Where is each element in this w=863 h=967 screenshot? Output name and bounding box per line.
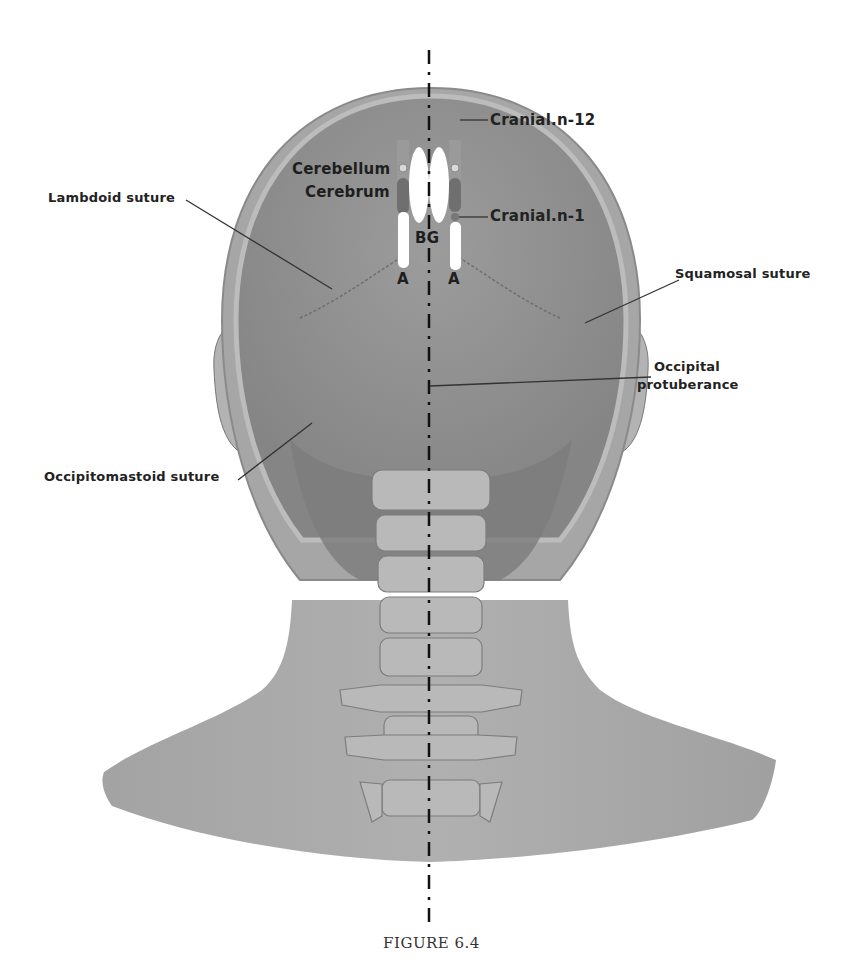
cerebellum-marker-left bbox=[399, 164, 407, 172]
label-a-left: A bbox=[397, 271, 409, 287]
label-lambdoid-suture: Lambdoid suture bbox=[48, 190, 175, 206]
cerebrum-marker-right bbox=[449, 178, 461, 212]
label-squamosal-suture: Squamosal suture bbox=[675, 266, 811, 282]
cranial-n1-marker bbox=[451, 213, 459, 221]
electrode-a-right bbox=[450, 222, 461, 270]
bg-oval-right bbox=[429, 147, 449, 223]
label-cranial-n1: Cranial.n-1 bbox=[490, 208, 585, 224]
label-cranial-n12: Cranial.n-12 bbox=[490, 112, 596, 128]
label-bg: BG bbox=[415, 230, 439, 246]
cerebrum-marker-left bbox=[397, 178, 409, 214]
label-cerebrum: Cerebrum bbox=[305, 184, 390, 200]
cerebellum-marker-right bbox=[451, 164, 459, 172]
label-occipitomastoid-suture: Occipitomastoid suture bbox=[44, 469, 219, 485]
label-a-right: A bbox=[448, 271, 460, 287]
bg-oval-left bbox=[409, 147, 429, 223]
label-occipital-protuberance-2: protuberance bbox=[637, 377, 739, 393]
figure-caption: FIGURE 6.4 bbox=[0, 934, 863, 952]
electrode-a-left bbox=[398, 212, 409, 268]
label-occipital-protuberance-1: Occipital bbox=[654, 359, 720, 375]
label-cerebellum: Cerebellum bbox=[292, 161, 390, 177]
